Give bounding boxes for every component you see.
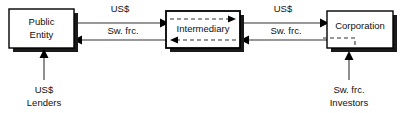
box-intermediary[interactable]: Intermediary [166, 11, 244, 52]
public-entity-label-line2: Entity [30, 29, 54, 40]
flow-left-top-group: US$ [75, 3, 169, 28]
intermediary-label: Intermediary [177, 23, 230, 34]
investors-arrowhead [345, 51, 354, 60]
flow-right-bottom-group: Sw. frc. [240, 25, 327, 45]
diagram-svg: US$ Sw. frc. US$ Sw. frc. Public Entity [0, 0, 400, 113]
flow-left-top-label: US$ [111, 3, 130, 14]
public-entity-label-line1: Public [29, 16, 55, 27]
diagram-canvas: US$ Sw. frc. US$ Sw. frc. Public Entity [0, 0, 400, 113]
party-investors-group: Sw. frc. Investors [330, 51, 369, 108]
box-corporation[interactable]: Corporation [323, 11, 397, 52]
lenders-label-line1: US$ [35, 84, 54, 95]
lenders-label-line2: Lenders [27, 97, 62, 108]
flow-left-bottom-group: Sw. frc. [73, 25, 166, 45]
party-lenders-group: US$ Lenders [27, 49, 62, 108]
investors-label-line1: Sw. frc. [333, 84, 364, 95]
flow-right-top-label: US$ [274, 3, 293, 14]
flow-right-bottom-label: Sw. frc. [270, 25, 301, 36]
corporation-label: Corporation [335, 20, 385, 31]
investors-label-line2: Investors [330, 97, 369, 108]
flow-right-top-group: US$ [241, 3, 329, 28]
box-public-entity[interactable]: Public Entity [9, 9, 78, 52]
flow-left-bottom-label: Sw. frc. [107, 25, 138, 36]
